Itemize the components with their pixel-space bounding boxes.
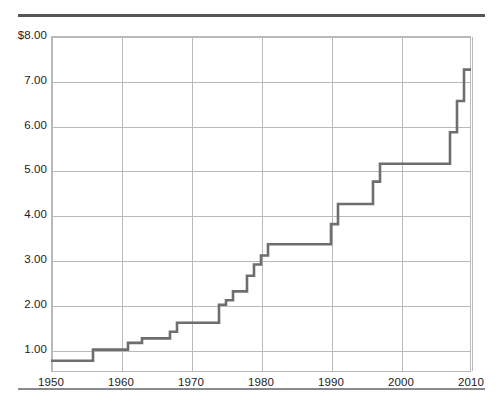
data-series-layer xyxy=(51,36,471,372)
chart-figure: $8.007.006.005.004.003.002.001.00 195019… xyxy=(0,0,503,403)
top-rule xyxy=(18,14,485,17)
y-tick-label: 2.00 xyxy=(0,299,47,311)
y-tick-label: 5.00 xyxy=(0,164,47,176)
y-tick-label: 7.00 xyxy=(0,75,47,87)
x-tick-label: 1950 xyxy=(21,377,81,389)
y-tick-label: 1.00 xyxy=(0,344,47,356)
x-tick-label: 1990 xyxy=(301,377,361,389)
y-tick-label: 6.00 xyxy=(0,120,47,132)
y-tick-label: $8.00 xyxy=(0,30,47,42)
y-tick-label: 3.00 xyxy=(0,254,47,266)
y-tick-label: 4.00 xyxy=(0,209,47,221)
series-line-value xyxy=(51,70,471,361)
gridline-vertical xyxy=(472,37,473,371)
x-tick-label: 2010 xyxy=(441,377,501,389)
x-tick-label: 1970 xyxy=(161,377,221,389)
x-tick-label: 1980 xyxy=(231,377,291,389)
x-tick-label: 2000 xyxy=(371,377,431,389)
x-tick-label: 1960 xyxy=(91,377,151,389)
